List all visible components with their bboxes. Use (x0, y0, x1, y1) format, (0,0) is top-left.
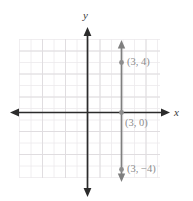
point-3-neg4 (119, 167, 124, 172)
point-3-0 (119, 110, 124, 115)
x-axis-label: x (174, 107, 179, 118)
x-axis-arrow-left (10, 109, 19, 117)
line-arrow-up (118, 40, 125, 49)
coordinate-plane-figure: y x (3, 4) (3, 0) (3, −4) (0, 0, 193, 201)
y-axis-label: y (83, 10, 88, 21)
y-axis-arrow-up (84, 27, 92, 36)
point-label-3-0: (3, 0) (125, 118, 148, 129)
point-3-4 (119, 60, 124, 65)
point-label-3-4: (3, 4) (127, 57, 150, 68)
y-axis-arrow-down (84, 188, 92, 197)
x-axis-arrow-right (161, 109, 170, 117)
point-label-3-neg4: (3, −4) (127, 164, 156, 175)
graph-canvas (0, 0, 193, 201)
